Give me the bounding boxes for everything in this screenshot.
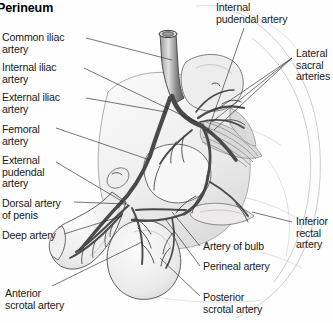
label-common-iliac-artery: Common iliac artery — [2, 32, 64, 55]
label-femoral-artery: Femoral artery — [2, 124, 40, 147]
leader-lateral-sacral-2 — [212, 58, 292, 122]
leader-anterior-scrotal — [52, 242, 142, 286]
leader-internal-iliac — [84, 68, 196, 122]
page-title: Perineum — [0, 1, 53, 15]
leader-lateral-sacral-3 — [214, 58, 292, 130]
leader-posterior-scrotal — [160, 258, 200, 296]
label-dorsal-artery-of-penis: Dorsal artery of penis — [2, 198, 61, 221]
label-perineal-artery: Perineal artery — [203, 261, 270, 273]
label-anterior-scrotal-artery: Anterior scrotal artery — [5, 288, 64, 311]
leader-perineal — [166, 220, 200, 266]
figure-container: Perineum Common iliac artery Internal il… — [0, 0, 333, 323]
leader-femoral — [56, 128, 150, 160]
leader-deep-artery — [64, 216, 122, 234]
label-internal-pudendal-artery: Internal pudendal artery — [216, 2, 287, 25]
label-external-pudendal-artery: External pudendal artery — [2, 155, 44, 190]
leader-artery-of-bulb — [172, 212, 200, 246]
label-internal-iliac-artery: Internal iliac artery — [2, 62, 56, 85]
label-artery-of-bulb: Artery of bulb — [203, 241, 264, 253]
leader-dorsal-artery — [74, 202, 126, 204]
label-deep-artery: Deep artery — [2, 230, 56, 242]
label-lateral-sacral-arteries: Lateral sacral arteries — [296, 48, 330, 83]
label-external-iliac-artery: External iliac artery — [2, 92, 60, 115]
label-posterior-scrotal-artery: Posterior scrotal artery — [203, 292, 262, 315]
leader-common-iliac — [86, 38, 172, 60]
leader-inferior-rectal — [252, 212, 292, 222]
leader-lateral-sacral-1 — [216, 58, 292, 110]
leader-external-pudendal — [56, 162, 130, 206]
leader-external-iliac — [86, 98, 166, 112]
label-inferior-rectal-artery: Inferior rectal artery — [296, 216, 328, 251]
